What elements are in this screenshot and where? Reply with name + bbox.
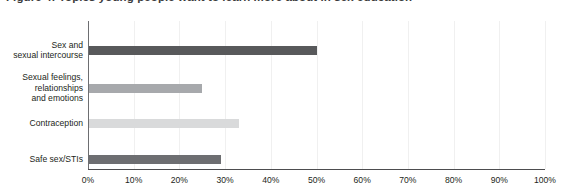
bar [88,119,239,128]
gridline [454,21,455,169]
x-axis-line [88,169,545,170]
gridline [545,21,546,169]
gridline [271,21,272,169]
x-tick-label: 50% [308,175,325,185]
x-tick-label: 20% [171,175,188,185]
category-label: Sex and sexual intercourse [13,40,83,61]
gridline [499,21,500,169]
x-tick-label: 100% [534,175,556,185]
category-label: Contraception [29,118,83,129]
gridline [225,21,226,169]
x-tick-label: 0% [82,175,94,185]
bar [88,155,221,164]
plot-area [88,21,545,169]
category-label: Sexual feelings, relationships and emoti… [22,72,83,104]
x-tick-label: 70% [399,175,416,185]
x-tick-label: 80% [445,175,462,185]
gridline [362,21,363,169]
bar-chart: Sex and sexual intercourseSexual feeling… [0,9,562,191]
gridline [317,21,318,169]
x-tick-label: 90% [491,175,508,185]
x-tick-label: 60% [354,175,371,185]
bar [88,84,202,93]
category-label: Safe sex/STIs [30,154,84,165]
bar [88,46,317,55]
y-axis-line [88,21,89,169]
x-tick-label: 10% [125,175,142,185]
figure-title-strip: Figure 4: Topics young people want to le… [0,0,562,9]
gridline [408,21,409,169]
gridline [134,21,135,169]
figure-title: Figure 4: Topics young people want to le… [6,0,412,3]
x-tick-label: 30% [216,175,233,185]
x-tick-label: 40% [262,175,279,185]
gridline [179,21,180,169]
